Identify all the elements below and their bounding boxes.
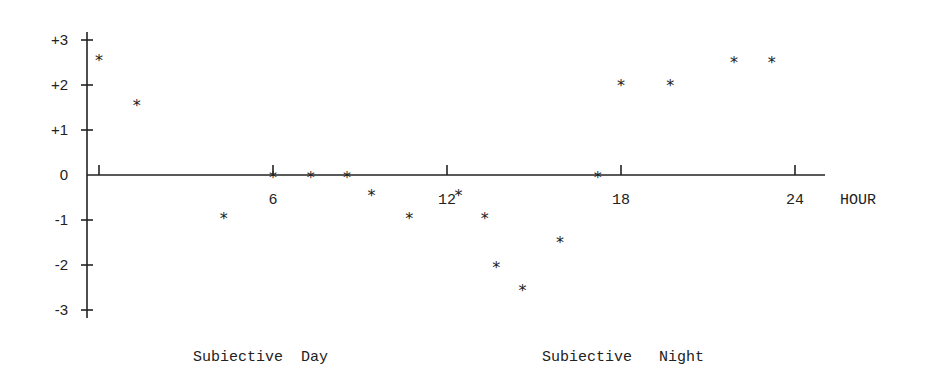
data-point-star: *	[220, 209, 228, 228]
data-point-star: *	[617, 76, 625, 95]
data-point-star: *	[518, 281, 526, 300]
data-point-star: *	[95, 51, 103, 70]
x-tick-labels: 6121824	[268, 192, 804, 209]
y-tick-labels: +3+2+10-1-2-3	[51, 31, 68, 318]
data-point-star: *	[368, 186, 376, 205]
y-tick-label: +1	[51, 121, 68, 138]
data-point-star: *	[307, 168, 315, 187]
phase-response-chart: +3+2+10-1-2-3 6121824 ******************…	[0, 0, 931, 386]
data-point-star: *	[556, 233, 564, 252]
y-tick-label: +3	[51, 31, 68, 48]
data-point-star: *	[594, 168, 602, 187]
x-tick-label: 18	[612, 192, 630, 209]
data-point-star: *	[768, 53, 776, 72]
data-point-star: *	[481, 209, 489, 228]
data-point-star: *	[666, 76, 674, 95]
subjective-day-label: Subiective Day	[193, 349, 328, 366]
data-point-star: *	[455, 186, 463, 205]
data-point-star: *	[405, 209, 413, 228]
data-point-star: *	[269, 168, 277, 187]
data-point-star: *	[343, 168, 351, 187]
axes	[81, 32, 825, 318]
y-tick-label: 0	[60, 166, 68, 183]
y-tick-label: -3	[55, 301, 68, 318]
x-axis-label: HOUR	[840, 192, 876, 209]
subjective-night-label: Subiective Night	[542, 349, 704, 366]
x-tick-label: 12	[438, 192, 456, 209]
data-point-star: *	[133, 96, 141, 115]
y-tick-label: -1	[55, 211, 68, 228]
y-tick-label: +2	[51, 76, 68, 93]
y-tick-label: -2	[55, 256, 68, 273]
x-tick-label: 6	[268, 192, 277, 209]
data-point-star: *	[492, 258, 500, 277]
x-tick-label: 24	[786, 192, 804, 209]
data-point-star: *	[730, 53, 738, 72]
